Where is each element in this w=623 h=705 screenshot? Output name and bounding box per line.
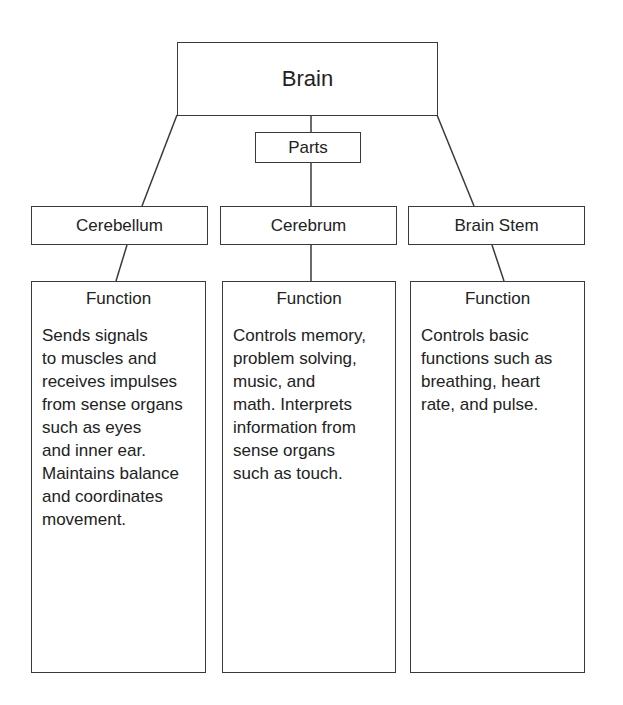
- brain-box: Brain: [177, 42, 438, 116]
- cerebellum-label: Cerebellum: [76, 216, 163, 236]
- cerebrum-box: Cerebrum: [220, 206, 397, 245]
- brain-to-brainstem-line: [437, 115, 474, 206]
- cerebrum-function-box: Function Controls memory, problem solvin…: [222, 281, 396, 673]
- brainstem-function-box: Function Controls basic functions such a…: [410, 281, 585, 673]
- brainstem-label: Brain Stem: [454, 216, 538, 236]
- cerebellum-function-title: Function: [32, 289, 205, 309]
- cerebrum-function-text: Controls memory, problem solving, music,…: [233, 324, 389, 485]
- brainstem-function-text: Controls basic functions such as breathi…: [421, 324, 578, 416]
- cerebellum-function-box: Function Sends signals to muscles and re…: [31, 281, 206, 673]
- brain-to-cerebellum-line: [142, 115, 177, 206]
- brainstem-function-title: Function: [411, 289, 584, 309]
- cerebellum-box: Cerebellum: [31, 206, 208, 245]
- cerebrum-function-title: Function: [223, 289, 395, 309]
- cerebrum-label: Cerebrum: [271, 216, 347, 236]
- cerebellum-function-text: Sends signals to muscles and receives im…: [42, 324, 199, 531]
- brain-label: Brain: [282, 66, 333, 92]
- parts-label: Parts: [288, 138, 328, 158]
- parts-box: Parts: [255, 132, 361, 163]
- brainstem-to-function-line: [492, 245, 504, 281]
- brainstem-box: Brain Stem: [408, 206, 585, 245]
- cerebellum-to-function-line: [116, 245, 127, 281]
